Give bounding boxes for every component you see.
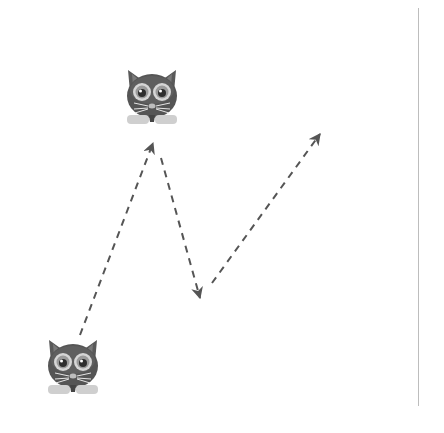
- cat-bottom-sprite: [48, 340, 98, 394]
- vertical-rule: [418, 8, 419, 406]
- arrows-group: [80, 134, 320, 335]
- arrow-3: [212, 134, 320, 283]
- cat-top-sprite: [127, 70, 177, 124]
- sprites-group: [48, 70, 177, 394]
- diagram-svg: [0, 0, 444, 433]
- arrow-1: [80, 143, 153, 335]
- arrow-2: [161, 158, 200, 298]
- diagram-canvas: [0, 0, 444, 433]
